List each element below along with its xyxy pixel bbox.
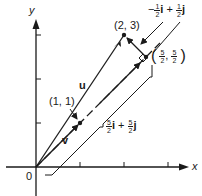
point-2-3 xyxy=(122,33,126,37)
point-proj-label: ( 52, 52 ) xyxy=(151,48,186,64)
point-1-1 xyxy=(78,121,82,125)
proj-vector-label: 52i + 52j xyxy=(106,119,137,134)
x-axis-label: x xyxy=(192,161,198,172)
y-axis xyxy=(33,19,42,196)
vector-v xyxy=(36,125,78,167)
point-1-1-label: (1, 1) xyxy=(49,96,75,107)
projection-vector-arrow xyxy=(100,63,140,103)
y-axis-arrow-icon xyxy=(33,19,40,29)
vector-v-label: v xyxy=(62,135,68,146)
perp-label-leader xyxy=(141,22,163,44)
point-proj xyxy=(144,55,148,59)
x-axis xyxy=(6,162,189,171)
perp-vector-label: −12i + 12j xyxy=(148,3,185,18)
point-2-3-label: (2, 3) xyxy=(114,20,140,31)
origin-label: 0 xyxy=(26,171,32,182)
vector-projection-diagram xyxy=(0,0,202,196)
y-axis-label: y xyxy=(29,5,35,16)
x-axis-arrow-icon xyxy=(179,164,189,171)
vector-u-label: u xyxy=(79,80,86,91)
